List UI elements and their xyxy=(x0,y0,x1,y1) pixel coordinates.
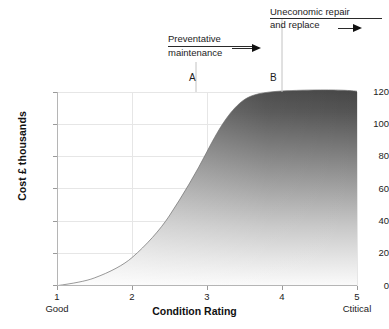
callout-uneconomic-line1: Uneconomic repair xyxy=(270,6,382,18)
y-tick-label-80: 80 xyxy=(337,150,389,161)
y-tick-label-0: 0 xyxy=(337,280,389,291)
callout-uneconomic-line2: and replace xyxy=(270,19,382,31)
x-tick-label-2: 2 xyxy=(112,291,152,302)
x-tick-marks xyxy=(57,286,357,290)
x-tick-label-4: 4 xyxy=(262,291,302,302)
y-tick-label-120: 120 xyxy=(337,86,389,97)
callout-preventative-arrow-tail xyxy=(232,48,254,49)
callout-uneconomic-repair: Uneconomic repair and replace xyxy=(270,6,382,30)
callout-uneconomic-arrow-icon xyxy=(353,24,362,32)
marker-label-a: A xyxy=(189,72,196,83)
callout-preventative-arrow-icon xyxy=(252,44,261,52)
y-tick-label-60: 60 xyxy=(337,183,389,194)
x-tick-label-5: 5 xyxy=(337,291,377,302)
y-tick-label-100: 100 xyxy=(337,118,389,129)
chart-figure: Cost £ thousands 120 100 80 60 40 20 0 1… xyxy=(0,0,389,329)
y-tick-label-20: 20 xyxy=(337,247,389,258)
x-tick-label-3: 3 xyxy=(187,291,227,302)
callout-preventative-line1: Preventative xyxy=(168,33,252,46)
x-axis-title: Condition Rating xyxy=(0,305,389,317)
y-tick-marks xyxy=(53,92,57,286)
callout-preventative-maintenance: Preventative maintenance xyxy=(168,33,252,58)
y-tick-label-40: 40 xyxy=(337,215,389,226)
x-tick-label-1: 1 xyxy=(37,291,77,302)
marker-label-b: B xyxy=(270,72,277,83)
y-axis-title: Cost £ thousands xyxy=(16,96,28,216)
